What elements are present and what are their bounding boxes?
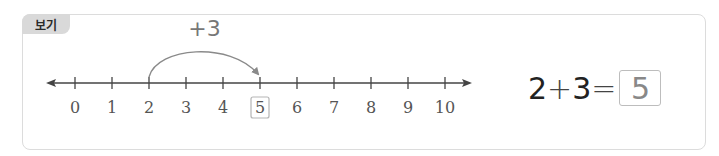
- answer-box: 5: [619, 70, 661, 106]
- jump-arc: [149, 52, 258, 77]
- equals-sign: =: [591, 71, 616, 106]
- tick-label: 5: [255, 98, 265, 117]
- tick-label: 4: [218, 98, 228, 117]
- tick-label: 1: [107, 98, 117, 117]
- tick-label: 9: [403, 98, 413, 117]
- plus-sign: +: [547, 71, 572, 106]
- tick-label: 2: [144, 98, 154, 117]
- equation-right-operand: 3: [572, 71, 591, 106]
- tick-label: 8: [366, 98, 376, 117]
- tick-label: 6: [292, 98, 302, 117]
- equation-left-operand: 2: [528, 71, 547, 106]
- tick-label: 7: [329, 98, 339, 117]
- jump-label: +3: [188, 16, 220, 41]
- tick-label: 0: [70, 98, 80, 117]
- tick-label: 10: [435, 98, 455, 117]
- equation: 2 + 3 = 5: [528, 68, 661, 108]
- tick-label: 3: [181, 98, 191, 117]
